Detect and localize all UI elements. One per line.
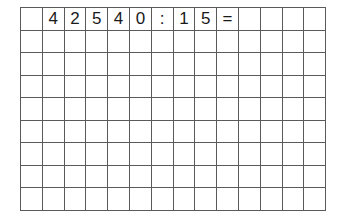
grid-cell[interactable] — [42, 75, 64, 98]
grid-cell[interactable] — [304, 143, 326, 166]
grid-cell[interactable]: = — [217, 8, 239, 31]
grid-cell[interactable] — [238, 8, 260, 31]
grid-cell[interactable] — [238, 53, 260, 76]
grid-cell[interactable] — [238, 188, 260, 211]
grid-cell[interactable] — [217, 75, 239, 98]
grid-cell[interactable] — [282, 53, 304, 76]
grid-cell[interactable] — [129, 165, 151, 188]
grid-cell[interactable] — [195, 120, 217, 143]
grid-cell[interactable] — [21, 143, 43, 166]
grid-cell[interactable] — [86, 75, 108, 98]
grid-cell[interactable]: 4 — [108, 8, 130, 31]
grid-cell[interactable] — [151, 98, 173, 121]
grid-cell[interactable] — [86, 188, 108, 211]
grid-cell[interactable] — [195, 143, 217, 166]
grid-cell[interactable] — [304, 165, 326, 188]
grid-cell[interactable] — [42, 188, 64, 211]
grid-cell[interactable] — [282, 30, 304, 53]
grid-cell[interactable] — [260, 53, 282, 76]
grid-cell[interactable] — [238, 98, 260, 121]
grid-cell[interactable]: 5 — [195, 8, 217, 31]
grid-cell[interactable] — [21, 30, 43, 53]
grid-cell[interactable] — [195, 98, 217, 121]
grid-cell[interactable] — [151, 165, 173, 188]
grid-cell[interactable] — [173, 98, 195, 121]
grid-cell[interactable] — [108, 98, 130, 121]
grid-cell[interactable] — [21, 8, 43, 31]
grid-cell[interactable] — [282, 165, 304, 188]
grid-cell[interactable] — [304, 120, 326, 143]
grid-cell[interactable] — [304, 98, 326, 121]
grid-cell[interactable] — [260, 75, 282, 98]
grid-cell[interactable] — [64, 75, 86, 98]
grid-cell[interactable] — [282, 8, 304, 31]
grid-cell[interactable] — [42, 98, 64, 121]
grid-cell[interactable]: 2 — [64, 8, 86, 31]
grid-cell[interactable] — [42, 143, 64, 166]
grid-cell[interactable] — [129, 30, 151, 53]
grid-cell[interactable] — [64, 188, 86, 211]
grid-cell[interactable] — [173, 53, 195, 76]
grid-cell[interactable] — [238, 30, 260, 53]
grid-cell[interactable] — [217, 120, 239, 143]
grid-cell[interactable] — [108, 30, 130, 53]
grid-cell[interactable] — [260, 98, 282, 121]
grid-cell[interactable] — [129, 143, 151, 166]
grid-cell[interactable] — [64, 98, 86, 121]
grid-cell[interactable] — [108, 188, 130, 211]
grid-cell[interactable] — [282, 98, 304, 121]
grid-cell[interactable]: : — [151, 8, 173, 31]
grid-cell[interactable] — [304, 188, 326, 211]
grid-cell[interactable] — [260, 165, 282, 188]
grid-cell[interactable] — [151, 188, 173, 211]
grid-cell[interactable] — [173, 75, 195, 98]
grid-cell[interactable] — [282, 188, 304, 211]
grid-cell[interactable] — [238, 143, 260, 166]
grid-cell[interactable] — [21, 75, 43, 98]
grid-cell[interactable] — [64, 165, 86, 188]
grid-cell[interactable] — [260, 188, 282, 211]
grid-cell[interactable] — [21, 188, 43, 211]
grid-cell[interactable] — [282, 143, 304, 166]
grid-cell[interactable] — [217, 188, 239, 211]
grid-cell[interactable] — [304, 30, 326, 53]
grid-cell[interactable] — [129, 98, 151, 121]
grid-cell[interactable] — [304, 8, 326, 31]
grid-cell[interactable]: 1 — [173, 8, 195, 31]
grid-cell[interactable] — [151, 143, 173, 166]
grid-cell[interactable]: 4 — [42, 8, 64, 31]
grid-cell[interactable] — [217, 98, 239, 121]
grid-cell[interactable] — [21, 120, 43, 143]
grid-cell[interactable] — [173, 143, 195, 166]
grid-cell[interactable] — [64, 30, 86, 53]
grid-cell[interactable] — [108, 143, 130, 166]
grid-cell[interactable] — [173, 120, 195, 143]
grid-cell[interactable] — [260, 143, 282, 166]
grid-cell[interactable] — [195, 188, 217, 211]
grid-cell[interactable] — [282, 75, 304, 98]
grid-cell[interactable]: 0 — [129, 8, 151, 31]
grid-cell[interactable] — [217, 165, 239, 188]
grid-cell[interactable] — [64, 143, 86, 166]
grid-cell[interactable] — [238, 75, 260, 98]
grid-cell[interactable] — [195, 165, 217, 188]
grid-cell[interactable] — [42, 165, 64, 188]
grid-cell[interactable] — [260, 120, 282, 143]
grid-cell[interactable] — [217, 143, 239, 166]
grid-cell[interactable] — [42, 120, 64, 143]
grid-cell[interactable] — [195, 30, 217, 53]
grid-cell[interactable] — [151, 53, 173, 76]
grid-cell[interactable] — [64, 120, 86, 143]
grid-cell[interactable] — [129, 120, 151, 143]
grid-cell[interactable] — [195, 75, 217, 98]
grid-cell[interactable] — [86, 165, 108, 188]
grid-cell[interactable] — [108, 165, 130, 188]
grid-cell[interactable] — [260, 8, 282, 31]
grid-cell[interactable] — [129, 188, 151, 211]
grid-cell[interactable] — [86, 120, 108, 143]
grid-cell[interactable] — [64, 53, 86, 76]
grid-cell[interactable] — [173, 30, 195, 53]
grid-cell[interactable] — [86, 30, 108, 53]
grid-cell[interactable] — [42, 53, 64, 76]
grid-cell[interactable] — [108, 53, 130, 76]
